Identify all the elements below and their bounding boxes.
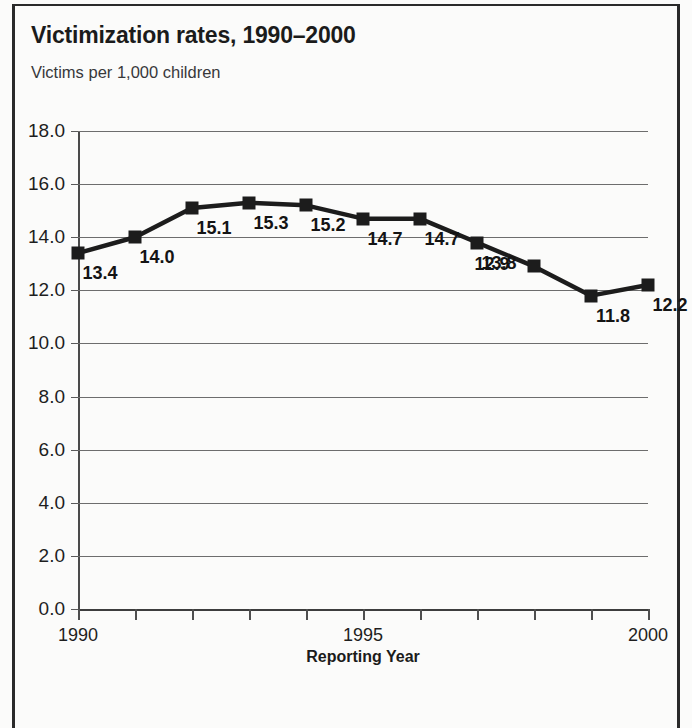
- data-point-marker: [72, 247, 85, 260]
- x-axis-tick-mark: [363, 609, 365, 620]
- y-axis-tick-mark: [71, 131, 78, 132]
- x-axis-tick-label: 1995: [343, 625, 383, 646]
- y-axis-tick-label: 8.0: [39, 386, 65, 408]
- y-axis-tick-mark: [71, 609, 78, 610]
- data-point-marker: [414, 212, 427, 225]
- plot-area: 18.016.014.012.010.08.06.04.02.00.0 1990…: [78, 131, 648, 609]
- data-point-marker: [129, 231, 142, 244]
- data-point-label: 15.1: [196, 218, 231, 239]
- data-point-marker: [243, 196, 256, 209]
- y-axis-tick-label: 2.0: [39, 545, 65, 567]
- x-axis-tick-mark: [534, 609, 536, 620]
- frame-left-rule: [12, 4, 15, 728]
- data-point-label: 12.9: [474, 254, 509, 275]
- data-point-label: 14.0: [139, 247, 174, 268]
- y-axis-tick-label: 12.0: [28, 279, 65, 301]
- y-axis-tick-label: 10.0: [28, 332, 65, 354]
- data-point-label: 12.2: [652, 295, 687, 316]
- data-point-marker: [471, 236, 484, 249]
- y-axis-tick-label: 14.0: [28, 226, 65, 248]
- x-axis-tick-mark: [192, 609, 194, 620]
- y-axis-tick-label: 18.0: [28, 120, 65, 142]
- data-point-label: 14.7: [424, 229, 459, 250]
- y-axis-tick-label: 0.0: [39, 598, 65, 620]
- x-axis-tick-mark: [135, 609, 137, 620]
- y-axis-tick-label: 4.0: [39, 492, 65, 514]
- x-axis-tick-mark: [306, 609, 308, 620]
- x-axis-tick-mark: [591, 609, 593, 620]
- data-point-label: 14.7: [367, 229, 402, 250]
- y-axis-tick-mark: [71, 450, 78, 451]
- data-point-label: 15.2: [310, 215, 345, 236]
- data-point-marker: [528, 260, 541, 273]
- y-axis-tick-mark: [71, 237, 78, 238]
- chart-figure: Victimization rates, 1990–2000 Victims p…: [0, 0, 692, 728]
- x-axis-tick-mark: [249, 609, 251, 620]
- data-point-marker: [186, 202, 199, 215]
- data-point-label: 11.8: [596, 306, 630, 327]
- x-axis-tick-label: 2000: [628, 625, 668, 646]
- chart-subtitle: Victims per 1,000 children: [31, 63, 221, 82]
- x-axis-tick-label: 1990: [58, 625, 98, 646]
- data-point-marker: [585, 289, 598, 302]
- data-point-marker: [300, 199, 313, 212]
- y-axis-tick-mark: [71, 556, 78, 557]
- data-point-label: 13.4: [82, 263, 117, 284]
- frame-right-rule: [677, 4, 680, 728]
- x-axis-tick-mark: [420, 609, 422, 620]
- data-point-marker: [357, 212, 370, 225]
- y-axis-tick-mark: [71, 503, 78, 504]
- y-axis-tick-label: 6.0: [39, 439, 65, 461]
- series-line: [78, 131, 648, 609]
- chart-title: Victimization rates, 1990–2000: [31, 22, 356, 49]
- x-axis-tick-mark: [477, 609, 479, 620]
- data-point-marker: [642, 279, 655, 292]
- x-axis-tick-mark: [648, 609, 650, 620]
- y-axis-tick-mark: [71, 290, 78, 291]
- frame-top-rule: [12, 4, 680, 6]
- y-axis-tick-mark: [71, 397, 78, 398]
- x-axis-title: Reporting Year: [78, 648, 648, 666]
- y-axis-tick-label: 16.0: [28, 173, 65, 195]
- y-axis-tick-mark: [71, 343, 78, 344]
- y-axis-tick-mark: [71, 184, 78, 185]
- x-axis-tick-mark: [78, 609, 80, 620]
- data-point-label: 15.3: [253, 213, 288, 234]
